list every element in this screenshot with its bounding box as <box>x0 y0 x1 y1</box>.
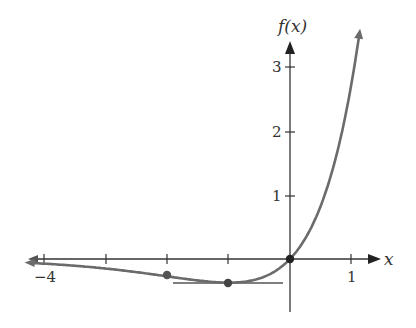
function-curve <box>33 39 359 283</box>
y-tick-label-1: 1 <box>272 187 282 205</box>
y-axis: 1 2 3 f(x) <box>272 16 307 312</box>
x-axis-arrow-right-icon <box>368 254 381 264</box>
x-tick-label-neg4: −4 <box>34 268 56 286</box>
y-axis-arrow-up-icon <box>285 41 295 54</box>
y-tick-label-2: 2 <box>272 123 282 141</box>
curve-arrow-up-icon <box>354 29 363 40</box>
function-plot: x −4 1 1 2 3 f(x) <box>0 0 416 328</box>
origin-point <box>286 255 294 263</box>
y-tick-label-3: 3 <box>272 58 282 76</box>
x-tick-label-1: 1 <box>347 268 357 286</box>
x-axis-label: x <box>384 249 394 269</box>
minimum-point <box>224 279 232 287</box>
curve-arrow-left-icon <box>25 259 35 267</box>
y-axis-label: f(x) <box>276 16 307 36</box>
inflection-point <box>163 271 171 279</box>
